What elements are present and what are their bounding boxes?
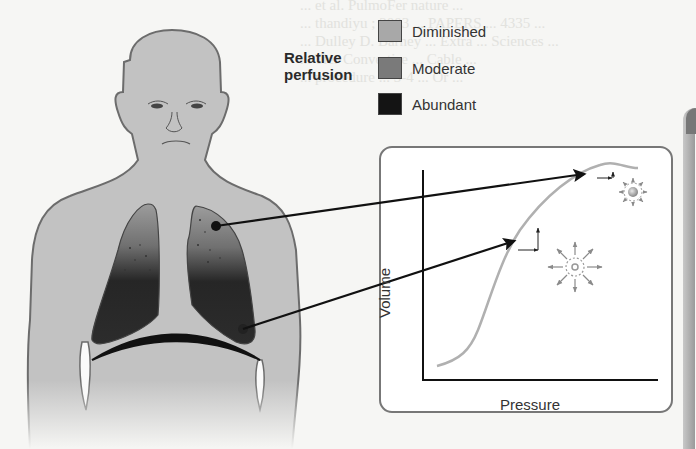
legend-swatch-moderate [378, 57, 402, 79]
pressure-volume-inset [380, 147, 672, 412]
adjacent-page-edge [683, 108, 695, 449]
legend-swatch-abundant [378, 93, 402, 115]
legend-label: Diminished [412, 23, 486, 40]
legend-label: Moderate [412, 60, 475, 77]
legend-item-diminished: Diminished [378, 19, 486, 43]
legend-item-moderate: Moderate [378, 56, 475, 80]
legend-swatch-diminished [378, 20, 402, 42]
legend-label: Abundant [412, 96, 476, 113]
legend-title-line: perfusion [284, 66, 352, 83]
x-axis-label: Pressure [500, 396, 560, 413]
legend-item-abundant: Abundant [378, 92, 476, 116]
legend-title: Relative perfusion [284, 49, 352, 83]
adjacent-page-edge-tab [686, 108, 696, 134]
y-axis-label: Volume [376, 268, 393, 318]
legend-title-line: Relative [284, 49, 352, 66]
